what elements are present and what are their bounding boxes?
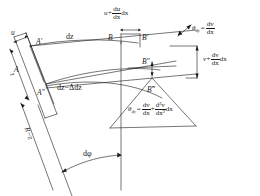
dz-minus-tail: dz — [74, 83, 82, 92]
label-d-phi: dφ — [83, 150, 92, 158]
label-dz-minus-delta-dz: dz−Δdz — [57, 84, 82, 92]
surface-upper-deformed — [30, 30, 196, 46]
diagram-linework — [0, 0, 260, 196]
axis-deformed — [46, 69, 160, 84]
label-u: u — [11, 29, 15, 37]
b-triple-prime-arrow — [128, 62, 176, 77]
equation-theta-bottom: θdy= dv dx + d²v dx² dx — [128, 102, 173, 117]
v-plus-dv-dimension — [170, 46, 199, 79]
theta-bottom-den1: dx — [142, 110, 151, 117]
theta-bottom-tail: dx — [166, 106, 173, 113]
equation-theta-top: θdy= dv dx — [192, 21, 215, 36]
label-point-a-double-prime: A″ — [37, 89, 45, 97]
label-r-minus-z: R−z — [30, 126, 43, 134]
v-plus-den: dx — [211, 60, 220, 67]
theta-top-den: dx — [206, 29, 215, 36]
u-plus-den: dx — [112, 14, 121, 21]
label-dz: dz — [66, 33, 74, 41]
theta-top-angle-marker — [178, 25, 192, 36]
equation-v-plus-dv: v+ dv dx dx — [203, 52, 227, 67]
v-plus-lead: v+ — [203, 56, 211, 63]
u-plus-lead: u+ — [104, 10, 112, 17]
label-point-b-prime: B′ — [142, 34, 148, 42]
label-point-b-double-prime: B″ — [142, 58, 150, 66]
theta-bottom-den2: dx² — [155, 110, 166, 117]
label-point-b-triple-prime: B‴ — [147, 86, 155, 94]
label-point-a-prime: A′ — [36, 38, 42, 46]
r-minus-z-dimension — [20, 103, 72, 196]
v-plus-tail: dx — [220, 56, 227, 63]
label-point-b: B — [108, 34, 113, 42]
u-plus-tail: dx — [121, 10, 128, 17]
dz-minus-lead: dz− — [57, 83, 69, 92]
beam-deformation-diagram: u A A′ A″ z R−z dz dz−Δdz B B′ B″ B‴ u+ … — [0, 0, 260, 196]
u-plus-du-bracket — [120, 29, 141, 47]
equation-u-plus-du: u+ du dx dx — [104, 6, 128, 21]
chord-a-to-b-double — [46, 61, 176, 84]
label-z: z — [15, 72, 18, 79]
